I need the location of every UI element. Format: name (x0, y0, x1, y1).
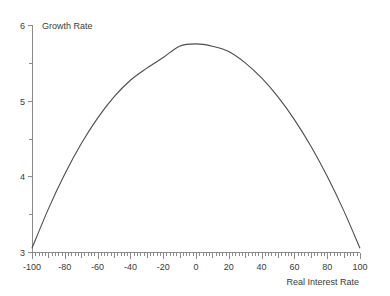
x-tick-label: -40 (124, 262, 137, 272)
x-tick-label: -100 (23, 262, 41, 272)
y-tick-label: 5 (20, 97, 25, 107)
y-tick-label: 4 (20, 172, 25, 182)
x-tick-label: 60 (289, 262, 299, 272)
x-tick-label: -60 (91, 262, 104, 272)
growth-rate-chart: 3456-100-80-60-40-20020406080100Growth R… (0, 0, 390, 296)
y-tick-label: 6 (20, 21, 25, 31)
y-tick-label: 3 (20, 248, 25, 258)
x-tick-label: 20 (224, 262, 234, 272)
growth-rate-curve (32, 44, 360, 248)
x-tick-label: 100 (352, 262, 367, 272)
x-axis-title: Real Interest Rate (286, 277, 359, 287)
x-tick-label: -20 (157, 262, 170, 272)
y-axis-title: Growth Rate (42, 21, 93, 31)
chart-container: 3456-100-80-60-40-20020406080100Growth R… (0, 0, 390, 296)
x-tick-label: 80 (322, 262, 332, 272)
x-tick-label: 0 (193, 262, 198, 272)
x-tick-label: -80 (58, 262, 71, 272)
x-tick-label: 40 (257, 262, 267, 272)
